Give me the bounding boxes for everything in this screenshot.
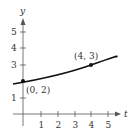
x-tick-label: 5 [106,120,112,130]
y-tick-label: 5 [11,27,17,37]
x-tick-label: 4 [89,120,95,130]
point-label: (4, 3) [74,51,98,61]
x-tick-label: 2 [56,120,62,130]
y-tick-label: 4 [11,43,17,53]
curve-line [13,56,117,84]
point-4-3 [89,63,93,67]
chart: t y 1 2 3 4 5 1 3 4 5 (0, 2) (4, 3) [0,0,133,135]
point-label: (0, 2) [26,85,50,95]
x-tick-label: 3 [73,120,79,130]
x-axis-arrow-icon [115,112,121,117]
x-tick-label: 1 [39,120,45,130]
y-tick-label: 1 [11,93,17,103]
y-axis-label: y [19,6,26,16]
point-0-2 [21,79,25,83]
y-axis-arrow-icon [21,18,26,25]
x-axis-label: t [124,109,128,119]
y-tick-label: 3 [11,60,17,70]
